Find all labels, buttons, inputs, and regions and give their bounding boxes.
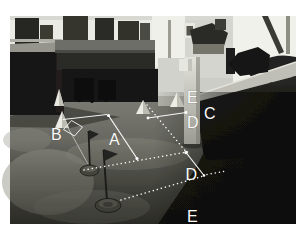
flag-base-center: [103, 202, 113, 207]
label-c: C: [204, 105, 216, 122]
endpoint-dot: [107, 114, 110, 117]
office-experiment-scene: B A E C D D E: [0, 0, 304, 235]
bottom-darkening: [10, 140, 296, 224]
label-d-lower: D: [186, 166, 198, 183]
endpoint-dot: [135, 157, 138, 160]
window-sill: [10, 39, 62, 42]
label-b: B: [51, 126, 62, 143]
copier-top-item: [215, 19, 226, 30]
copier-tray: [193, 44, 224, 54]
endpoint-dot: [203, 174, 206, 177]
desk-divider-edge: [55, 50, 155, 53]
window-frame-bar: [286, 16, 290, 54]
box-on-pillar-shade: [188, 59, 192, 71]
label-e-lower: E: [187, 208, 198, 225]
label-a: A: [109, 131, 120, 148]
office-background: [2, 16, 296, 224]
flag-base-highlight: [83, 166, 96, 172]
center-desk-body: [57, 53, 155, 70]
window-mullion: [63, 16, 88, 42]
page-background: B A E C D D E: [0, 0, 304, 235]
label-e-upper: E: [187, 89, 198, 106]
annotated-office-photo: B A E C D D E: [0, 0, 304, 235]
label-d-upper: D: [187, 114, 199, 131]
window-frame-bar: [168, 20, 171, 62]
endpoint-dot: [147, 117, 150, 120]
